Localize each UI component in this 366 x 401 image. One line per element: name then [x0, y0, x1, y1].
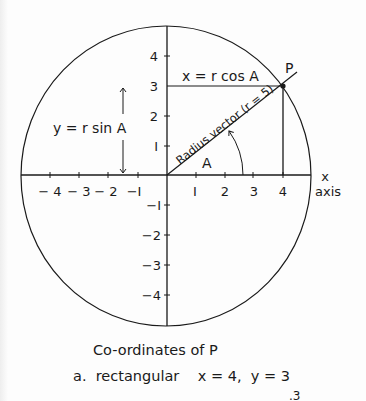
- x-tick-label: − 4: [38, 184, 61, 199]
- x-tick-label: I: [193, 184, 197, 199]
- x-tick-label: 3: [250, 184, 258, 199]
- point-p-label: P: [285, 60, 293, 76]
- x-axis-tick-labels: − 4 − 3 − 2 −I I 2 3 4: [38, 184, 287, 199]
- x-tick-label: 4: [279, 184, 287, 199]
- caption-title: Co-ordinates of P: [93, 342, 218, 358]
- angle-label: A: [202, 155, 212, 171]
- x-tick-label: − 2: [94, 184, 117, 199]
- angle-arc-arrow: [229, 131, 243, 175]
- y-tick-label: −2: [142, 228, 161, 243]
- radius-circle: [21, 26, 311, 326]
- y-tick-label: −I: [146, 198, 161, 213]
- y-tick-label: 4: [150, 49, 158, 64]
- y-tick-label: I: [154, 139, 158, 154]
- point-p-marker: [280, 83, 285, 88]
- radius-vector-label: Radius vector (r = 5): [173, 82, 276, 168]
- y-tick-label: 3: [150, 79, 158, 94]
- y-tick-label: 2: [150, 109, 158, 124]
- x-tick-label: − 3: [67, 184, 90, 199]
- y-formula-label: y = r sin A: [53, 120, 127, 136]
- x-tick-label: 2: [221, 184, 229, 199]
- polar-coordinates-diagram: − 4 − 3 − 2 −I I 2 3 4 x axis 4 3 2 I −I…: [0, 0, 366, 401]
- x-formula-label: x = r cos A: [182, 68, 259, 84]
- y-tick-label: −4: [142, 288, 161, 303]
- caption-clipped-fragment: .3: [289, 389, 300, 401]
- y-axis-tick-labels: 4 3 2 I −I −2 −3 −4: [142, 49, 161, 303]
- x-axis-label-axis: axis: [315, 184, 341, 199]
- page: − 4 − 3 − 2 −I I 2 3 4 x axis 4 3 2 I −I…: [0, 0, 366, 401]
- x-axis-label-x: x: [321, 169, 329, 184]
- x-tick-label: −I: [127, 184, 142, 199]
- caption-rectangular: a. rectangular x = 4, y = 3: [73, 368, 290, 384]
- y-tick-label: −3: [142, 258, 161, 273]
